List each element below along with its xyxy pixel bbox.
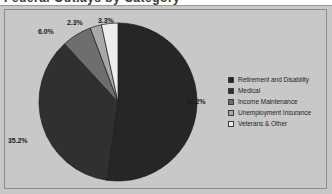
legend-item-label: Income Maintenance <box>238 98 297 105</box>
pie-slice <box>107 23 197 181</box>
slice-value-label-income-maintenance: 6.0% <box>38 28 54 35</box>
legend-swatch-icon <box>228 77 234 83</box>
pie-svg <box>38 22 198 182</box>
legend-item[interactable]: Income Maintenance <box>228 96 328 107</box>
legend-item[interactable]: Medical <box>228 85 328 96</box>
legend-item-label: Medical <box>238 87 260 94</box>
slice-value-label-veterans-and-other: 3.3% <box>98 17 114 24</box>
slice-value-label-unemployment-insurance: 2.3% <box>67 19 83 26</box>
chart-canvas: 51.2% 35.2% 6.0% 2.3% 3.3% Retirement an… <box>0 5 332 194</box>
legend-item-label: Retirement and Disability <box>238 76 309 83</box>
legend-swatch-icon <box>228 110 234 116</box>
legend-item[interactable]: Unemployment Insurance <box>228 107 328 118</box>
slice-value-label-medical: 35.2% <box>8 137 27 144</box>
legend-item-label: Unemployment Insurance <box>238 109 311 116</box>
legend-swatch-icon <box>228 99 234 105</box>
pie-chart-screenshot: Federal Outlays by Category 51.2% 35.2% … <box>0 0 332 194</box>
legend-item[interactable]: Retirement and Disability <box>228 74 328 85</box>
pie-plot-area <box>38 22 198 182</box>
slice-value-label-retirement-and-disability: 51.2% <box>186 98 205 105</box>
legend-swatch-icon <box>228 121 234 127</box>
legend-item[interactable]: Veterans & Other <box>228 118 328 129</box>
legend-item-label: Veterans & Other <box>238 120 287 127</box>
pie-slices <box>39 23 197 181</box>
legend-swatch-icon <box>228 88 234 94</box>
chart-legend: Retirement and DisabilityMedicalIncome M… <box>228 74 328 129</box>
